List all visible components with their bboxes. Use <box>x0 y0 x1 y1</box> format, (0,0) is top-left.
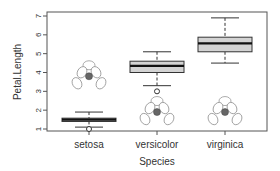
iris-flower-icon <box>206 97 244 127</box>
y-axis: 1234567 <box>34 13 48 131</box>
x-tick-label: setosa <box>74 139 104 150</box>
box-virginica <box>198 18 252 63</box>
outlier-point <box>155 89 160 94</box>
box-setosa <box>62 112 116 131</box>
y-tick-label: 6 <box>34 32 43 37</box>
y-tick-label: 7 <box>34 13 43 18</box>
x-axis: setosaversicolorvirginica <box>74 131 244 150</box>
x-axis-title: Species <box>139 156 175 167</box>
y-tick-label: 1 <box>34 126 43 131</box>
y-tick-label: 3 <box>34 89 43 94</box>
y-tick-label: 2 <box>34 107 43 112</box>
y-axis-title: Petal.Length <box>12 44 23 100</box>
iris-flower-icon <box>70 61 108 91</box>
x-tick-label: versicolor <box>136 139 179 150</box>
y-tick-label: 5 <box>34 51 43 56</box>
x-tick-label: virginica <box>207 139 244 150</box>
iris-flower-icon <box>138 97 176 127</box>
box-versicolor <box>130 52 184 94</box>
y-tick-label: 4 <box>34 70 43 75</box>
iqr-box <box>198 37 252 52</box>
outlier-point <box>87 127 92 132</box>
boxplot-chart: 1234567 setosaversicolorvirginica Petal.… <box>0 0 280 171</box>
